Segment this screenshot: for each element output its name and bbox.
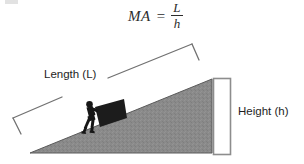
height-label: Height (h) (238, 105, 289, 117)
formula-equals-sign: = (156, 8, 167, 25)
mechanical-advantage-formula: MA = L h (128, 2, 183, 31)
height-bracket (214, 79, 231, 155)
formula-numerator: L (171, 1, 183, 15)
length-label: Length (L) (44, 68, 96, 80)
formula-fraction: L h (171, 1, 183, 30)
formula-left-side: MA (128, 8, 151, 25)
inclined-plane-diagram: MA = L h Length (L) Height (h) (0, 0, 304, 164)
formula-denominator: h (172, 16, 183, 30)
